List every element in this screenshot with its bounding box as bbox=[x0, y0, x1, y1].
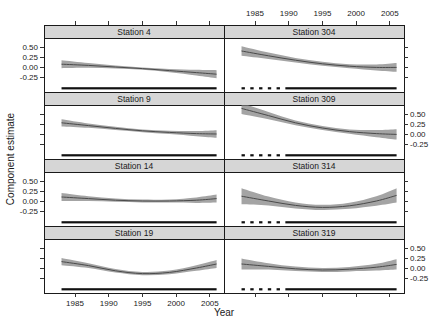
rug-station-304 bbox=[285, 87, 396, 89]
x-tick-label-top: 2005 bbox=[381, 9, 399, 18]
strip-label-station-309: Station 309 bbox=[292, 94, 335, 104]
x-tick-label-bottom: 2000 bbox=[167, 299, 185, 308]
y-tick-label-left: 0.25 bbox=[22, 187, 38, 196]
y-tick-label-left: -0.25 bbox=[20, 207, 39, 216]
y-tick-label-left: 0.00 bbox=[22, 63, 38, 72]
rug-station-314 bbox=[259, 221, 262, 223]
y-tick-label-left: -0.25 bbox=[20, 73, 39, 82]
y-tick-label-right: 0.00 bbox=[410, 264, 426, 273]
rug-station-304 bbox=[250, 87, 253, 89]
x-tick-label-top: 1990 bbox=[280, 9, 298, 18]
rug-station-304 bbox=[259, 87, 262, 89]
rug-station-314 bbox=[242, 221, 245, 223]
rug-station-314 bbox=[250, 221, 253, 223]
y-tick-label-right: -0.25 bbox=[410, 140, 429, 149]
rug-station-9 bbox=[62, 154, 217, 156]
x-tick-label-bottom: 1995 bbox=[134, 299, 152, 308]
rug-station-309 bbox=[268, 154, 271, 156]
rug-station-19 bbox=[62, 288, 217, 290]
strip-label-station-19: Station 19 bbox=[115, 228, 154, 238]
y-tick-label-right: 0.00 bbox=[410, 130, 426, 139]
strip-label-station-4: Station 4 bbox=[117, 27, 151, 37]
strip-label-station-319: Station 319 bbox=[292, 228, 335, 238]
rug-station-319 bbox=[250, 288, 253, 290]
rug-station-304 bbox=[277, 87, 280, 89]
strip-label-station-314: Station 314 bbox=[292, 161, 335, 171]
x-tick-label-bottom: 1985 bbox=[66, 299, 84, 308]
rug-station-309 bbox=[259, 154, 262, 156]
x-tick-label-bottom: 1990 bbox=[100, 299, 118, 308]
y-tick-label-right: 0.25 bbox=[410, 254, 426, 263]
y-tick-label-right: 0.25 bbox=[410, 120, 426, 129]
y-tick-label-right: -0.25 bbox=[410, 274, 429, 283]
x-tick-label-top: 1985 bbox=[246, 9, 264, 18]
strip-label-station-14: Station 14 bbox=[115, 161, 154, 171]
y-tick-label-right: 0.50 bbox=[410, 244, 426, 253]
rug-station-319 bbox=[277, 288, 280, 290]
y-tick-label-left: 0.00 bbox=[22, 197, 38, 206]
rug-station-319 bbox=[268, 288, 271, 290]
y-axis-title: Component estimate bbox=[5, 113, 16, 205]
rug-station-304 bbox=[242, 87, 245, 89]
x-axis-title: Year bbox=[214, 307, 234, 318]
rug-station-309 bbox=[250, 154, 253, 156]
rug-station-309 bbox=[242, 154, 245, 156]
rug-station-309 bbox=[277, 154, 280, 156]
y-tick-label-left: 0.50 bbox=[22, 177, 38, 186]
trellis-figure: Station 4Station 304Station 9Station 309… bbox=[0, 0, 447, 331]
plot-area: Station 4Station 304Station 9Station 309… bbox=[0, 0, 447, 331]
rug-station-319 bbox=[259, 288, 262, 290]
x-tick-label-top: 1995 bbox=[314, 9, 332, 18]
rug-station-319 bbox=[242, 288, 245, 290]
rug-station-309 bbox=[285, 154, 396, 156]
y-tick-label-right: 0.50 bbox=[410, 110, 426, 119]
strip-label-station-304: Station 304 bbox=[292, 27, 335, 37]
rug-station-319 bbox=[285, 288, 396, 290]
y-tick-label-left: 0.25 bbox=[22, 53, 38, 62]
rug-station-314 bbox=[277, 221, 280, 223]
rug-station-4 bbox=[62, 87, 217, 89]
strip-label-station-9: Station 9 bbox=[117, 94, 151, 104]
x-tick-label-top: 2000 bbox=[347, 9, 365, 18]
y-tick-label-left: 0.50 bbox=[22, 43, 38, 52]
rug-station-314 bbox=[285, 221, 396, 223]
rug-station-304 bbox=[268, 87, 271, 89]
rug-station-314 bbox=[268, 221, 271, 223]
rug-station-14 bbox=[62, 221, 217, 223]
